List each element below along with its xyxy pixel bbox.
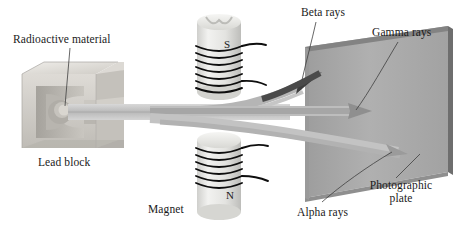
- label-beta-rays: Beta rays: [301, 6, 345, 19]
- label-radioactive-material: Radioactive material: [13, 33, 110, 46]
- label-photographic-plate: Photographic plate: [364, 179, 438, 204]
- magnet-south-pole: [196, 14, 266, 100]
- label-north-pole: N: [226, 189, 234, 201]
- label-magnet: Magnet: [148, 203, 184, 216]
- magnet-north-pole: [196, 132, 268, 220]
- label-alpha-rays: Alpha rays: [297, 206, 348, 219]
- radioactivity-diagram: Radioactive material Lead block Magnet B…: [0, 0, 464, 233]
- label-south-pole: S: [224, 38, 230, 50]
- label-lead-block: Lead block: [38, 156, 90, 169]
- label-gamma-rays: Gamma rays: [372, 26, 431, 39]
